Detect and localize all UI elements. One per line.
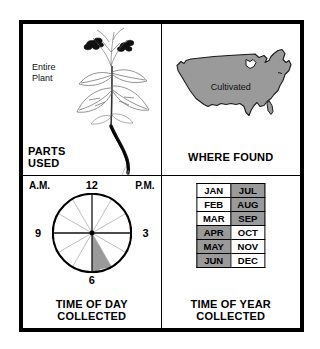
table-row: FEB AUG (197, 198, 265, 212)
clock-dial (52, 193, 132, 273)
month-cell-may[interactable]: MAY (197, 240, 231, 254)
month-cell-nov[interactable]: NOV (231, 240, 265, 254)
panel-time-of-year: JAN JUL FEB AUG MAR SEP APR (162, 176, 301, 328)
panel-time-of-day: A.M. P.M. 12 3 6 9 (23, 176, 162, 328)
month-cell-apr[interactable]: APR (197, 226, 231, 240)
month-cell-oct[interactable]: OCT (231, 226, 265, 240)
month-cell-jun[interactable]: JUN (197, 254, 231, 268)
entire-plant-label: Entire Plant (32, 62, 56, 84)
table-row: JUN DEC (197, 254, 265, 268)
chart-frame: Entire Plant PARTS USED Cultivated WHERE… (19, 20, 304, 332)
hour-label-3: 3 (142, 227, 148, 239)
where-found-caption: WHERE FOUND (162, 151, 301, 163)
month-cell-jan[interactable]: JAN (197, 184, 231, 198)
month-cell-dec[interactable]: DEC (231, 254, 265, 268)
month-cell-mar[interactable]: MAR (197, 212, 231, 226)
hour-label-9: 9 (35, 227, 41, 239)
month-cell-aug[interactable]: AUG (231, 198, 265, 212)
panel-where-found: Cultivated WHERE FOUND (162, 24, 301, 176)
month-cell-feb[interactable]: FEB (197, 198, 231, 212)
quadrant-grid: Entire Plant PARTS USED Cultivated WHERE… (23, 24, 300, 328)
table-row: MAR SEP (197, 212, 265, 226)
table-row: MAY NOV (197, 240, 265, 254)
time-of-day-caption: TIME OF DAY COLLECTED (23, 298, 161, 322)
parts-used-caption: PARTS USED (28, 145, 65, 169)
hour-label-6: 6 (23, 274, 161, 286)
united-states-map (171, 40, 296, 130)
hour-label-12: 12 (23, 179, 161, 191)
month-grid-body: JAN JUL FEB AUG MAR SEP APR (197, 184, 265, 268)
month-grid: JAN JUL FEB AUG MAR SEP APR (196, 183, 265, 268)
infographic-root: Entire Plant PARTS USED Cultivated WHERE… (0, 0, 320, 349)
panel-parts-used: Entire Plant PARTS USED (23, 24, 162, 176)
table-row: JAN JUL (197, 184, 265, 198)
month-cell-jul[interactable]: JUL (231, 184, 265, 198)
table-row: APR OCT (197, 226, 265, 240)
plant-illustration (67, 26, 162, 176)
time-of-year-caption: TIME OF YEAR COLLECTED (162, 298, 301, 322)
month-cell-sep[interactable]: SEP (231, 212, 265, 226)
